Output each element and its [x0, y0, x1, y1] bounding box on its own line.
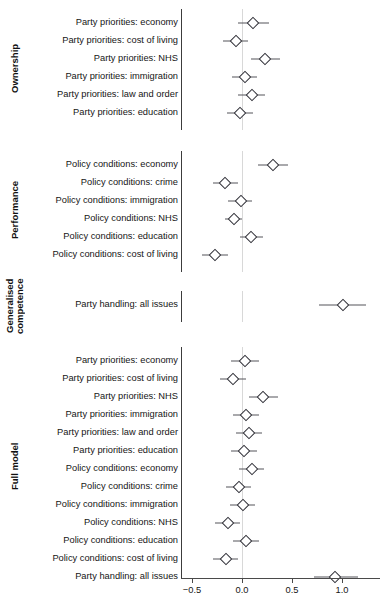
point-estimate-marker	[259, 53, 272, 66]
zero-reference-line	[242, 291, 243, 322]
row-label: Policy conditions: education	[63, 536, 178, 545]
row-label: Policy conditions: immigration	[56, 500, 178, 509]
x-axis-tick-label: 0.5	[286, 585, 299, 595]
row-label: Policy conditions: NHS	[84, 214, 178, 223]
row-label: Party priorities: NHS	[94, 54, 178, 63]
panel-axis-line	[181, 151, 182, 272]
point-estimate-marker	[257, 390, 270, 403]
point-estimate-marker	[237, 499, 250, 512]
point-estimate-marker	[246, 89, 259, 102]
row-label: Party handling: all issues	[75, 572, 178, 581]
point-estimate-marker	[230, 34, 243, 47]
x-axis-line	[181, 578, 380, 579]
point-estimate-marker	[245, 231, 258, 244]
panel-group-label: Performance	[8, 150, 22, 270]
point-estimate-marker	[247, 16, 260, 29]
plot-area: −0.50.00.51.0	[181, 0, 384, 604]
row-label: Policy conditions: crime	[81, 178, 178, 187]
row-label: Party priorities: NHS	[94, 392, 178, 401]
point-estimate-marker	[239, 354, 252, 367]
row-label: Party priorities: law and order	[57, 90, 178, 99]
zero-reference-line	[242, 151, 243, 272]
row-label: Party priorities: economy	[76, 356, 178, 365]
point-estimate-marker	[243, 426, 256, 439]
point-estimate-marker	[337, 299, 350, 312]
x-axis-tick	[192, 579, 193, 583]
panel-axis-line	[181, 9, 182, 130]
point-estimate-marker	[246, 462, 259, 475]
row-label: Policy conditions: NHS	[84, 518, 178, 527]
point-estimate-marker	[219, 177, 232, 190]
row-label: Policy conditions: cost of living	[52, 554, 178, 563]
point-estimate-marker	[239, 71, 252, 84]
x-axis-tick	[342, 579, 343, 583]
row-label: Party priorities: law and order	[57, 428, 178, 437]
panel-axis-line	[181, 291, 182, 322]
point-estimate-marker	[209, 249, 222, 262]
panel-group-label: Ownership	[8, 6, 22, 130]
point-estimate-marker	[267, 159, 280, 172]
point-estimate-marker	[222, 517, 235, 530]
row-label: Party priorities: immigration	[65, 410, 178, 419]
row-label: Policy conditions: cost of living	[52, 251, 178, 260]
row-label: Party handling: all issues	[75, 300, 178, 309]
x-axis-tick-label: 0.0	[236, 585, 249, 595]
x-axis-tick-label: −0.5	[183, 585, 201, 595]
panel-axis-line	[181, 347, 182, 578]
row-label: Party priorities: education	[73, 446, 178, 455]
row-label: Party priorities: immigration	[65, 72, 178, 81]
row-label: Party priorities: cost of living	[62, 374, 178, 383]
row-label: Party priorities: economy	[76, 18, 178, 27]
panel-group-label: Generalised competence	[2, 268, 28, 344]
row-label: Policy conditions: economy	[66, 160, 178, 169]
point-estimate-marker	[228, 213, 241, 226]
row-label: Policy conditions: immigration	[56, 196, 178, 205]
row-label: Party priorities: cost of living	[62, 36, 178, 45]
panel-group-label: Full model	[8, 352, 22, 580]
row-label: Policy conditions: education	[63, 233, 178, 242]
point-estimate-marker	[220, 553, 233, 566]
x-axis-tick-label: 1.0	[336, 585, 349, 595]
point-estimate-marker	[234, 107, 247, 120]
point-estimate-marker	[227, 372, 240, 385]
x-axis-tick	[242, 579, 243, 583]
forest-plot-figure: Party priorities: economyParty prioritie…	[0, 0, 384, 604]
x-axis-tick	[292, 579, 293, 583]
row-label: Policy conditions: economy	[66, 464, 178, 473]
point-estimate-marker	[233, 480, 246, 493]
row-label: Party priorities: education	[73, 108, 178, 117]
point-estimate-marker	[238, 444, 251, 457]
point-estimate-marker	[235, 195, 248, 208]
row-label: Policy conditions: crime	[81, 482, 178, 491]
